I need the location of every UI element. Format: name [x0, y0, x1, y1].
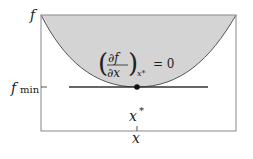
x-star-label-base: x [129, 108, 137, 124]
derivative-subscript: x* [137, 69, 146, 78]
fmin-label-sub: min [20, 84, 40, 95]
x-star-label-sup: * [139, 105, 144, 116]
derivative-denominator: ∂x [107, 66, 120, 80]
x-axis-label: x [132, 130, 140, 146]
y-axis-label: f [29, 7, 38, 23]
fmin-label-base: f [10, 80, 19, 96]
diagram-canvas: f f min ( ∂f ∂x ) x* = 0 x * x [0, 0, 253, 159]
minimum-point [134, 84, 140, 90]
equals-zero: = 0 [153, 57, 175, 71]
